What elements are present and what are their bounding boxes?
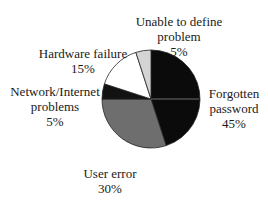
label-forgotten-password: Forgotten password 45% xyxy=(200,86,268,131)
label-user-error: User error 30% xyxy=(70,166,150,196)
label-unable-to-define: Unable to define problem 5% xyxy=(119,14,239,59)
label-hardware-failure: Hardware failure 15% xyxy=(33,46,133,76)
label-network-problems: Network/Internet problems 5% xyxy=(6,84,104,129)
